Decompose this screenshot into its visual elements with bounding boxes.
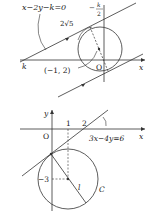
circle-label: C — [99, 185, 105, 194]
line-arrow-icon — [65, 38, 69, 41]
origin-label-2: O — [43, 132, 49, 141]
line-equation-label: x−2y−k=0 — [22, 3, 66, 12]
x-axis-arrow-icon — [141, 58, 145, 62]
diagram-canvas: x−2y−k=0 − k 2 2√5 (−1, 2) k O x y x O 1… — [0, 0, 151, 211]
equation-leader — [103, 117, 106, 126]
radius-label: l — [78, 183, 81, 192]
x-axis-label-2: x — [139, 132, 144, 141]
origin-label-1: O — [96, 63, 102, 72]
y-axis-label-2: y — [43, 109, 49, 118]
k-numerator: k — [97, 1, 101, 8]
line-equation-label-2: 3x−4y=6 — [89, 134, 125, 143]
k-denominator: 2 — [97, 10, 101, 17]
figure-2: y x O 1 2 3x−4y=6 −3 l C — [20, 109, 145, 211]
tick-neg3: −3 — [38, 175, 49, 184]
distance-label: 2√5 — [60, 20, 73, 28]
figure-1: x−2y−k=0 − k 2 2√5 (−1, 2) k O x — [20, 1, 145, 97]
x-axis-label-1: x — [139, 63, 144, 72]
tangent-line-lower — [58, 54, 143, 97]
center-point-2 — [67, 178, 69, 180]
tangent-point — [50, 153, 52, 155]
x-axis-arrow-icon — [141, 127, 145, 131]
line-label-leader — [38, 14, 46, 50]
center-label: (−1, 2) — [44, 66, 71, 75]
center-point-1 — [98, 48, 100, 50]
minus-sign: − — [89, 4, 95, 12]
k-axis-label: k — [22, 62, 27, 71]
tick-2: 2 — [82, 119, 87, 128]
y-axis-arrow-icon — [50, 110, 54, 114]
tick-1: 1 — [66, 119, 71, 128]
